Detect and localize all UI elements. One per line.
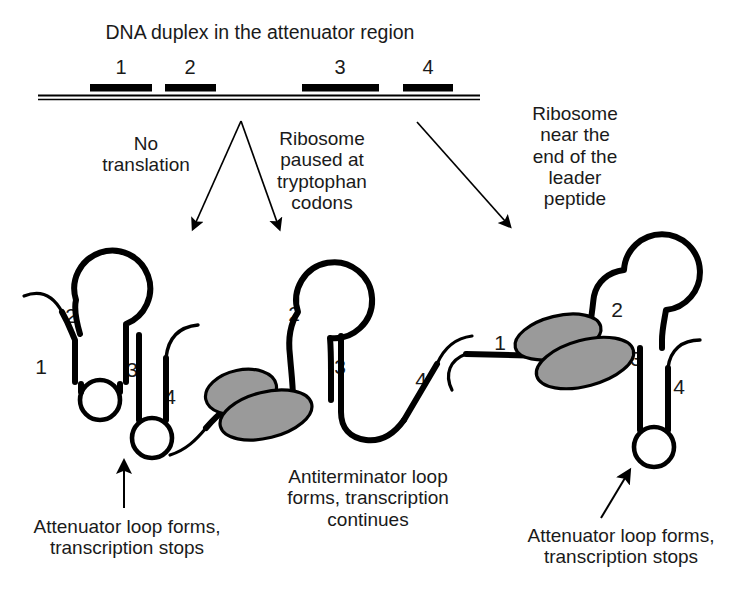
panel-ribosome-paused-structure: [170, 262, 472, 455]
branch-arrows: [196, 121, 505, 222]
duplex-segment-bar-2: [165, 84, 216, 92]
branch-arrow-middle: [241, 121, 277, 222]
dna-duplex-backbone: [38, 96, 480, 100]
caption-arrow-right: [601, 478, 625, 518]
duplex-segment-bar-1: [90, 84, 152, 92]
duplex-segment-bar-3: [302, 84, 379, 92]
branch-arrow-left: [196, 121, 241, 222]
caption-arrows: [124, 470, 625, 518]
attenuation-diagram: DNA duplex in the attenuator region 1 2 …: [0, 0, 749, 599]
ribosome-panel-2: [201, 363, 317, 449]
ribosome-panel-3: [510, 306, 639, 398]
panel-no-translation-structure: [24, 251, 198, 458]
dna-duplex-segments: [90, 84, 453, 92]
branch-arrow-right: [417, 122, 505, 221]
duplex-segment-bar-4: [403, 84, 453, 92]
diagram-artwork: [0, 0, 749, 599]
